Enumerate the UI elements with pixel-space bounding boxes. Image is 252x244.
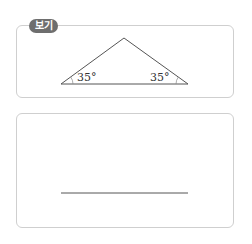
work-diagram <box>0 0 252 244</box>
